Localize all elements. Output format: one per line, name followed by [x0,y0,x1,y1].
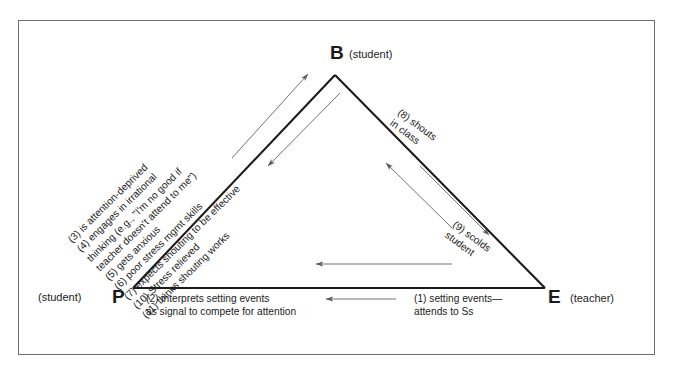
vertex-role-e: (teacher) [570,291,614,305]
figure-container: B (student) (student) P E (teacher) (3) … [0,0,674,365]
flow-arrows [232,74,489,299]
vertex-label-e: E [548,285,561,309]
arrow-e-to-b-scolds [386,163,452,228]
arrow-b-to-p-downward [268,93,340,166]
step-2-label-line2: as signal to compete for attention [146,305,296,318]
step-1-label-line1: (1) setting events— [414,292,502,305]
vertex-label-b: B [330,41,344,65]
vertex-role-b: (student) [349,47,392,61]
step-2-label-line1: (2) interprets setting events [146,292,269,305]
triangle-edge-b-to-e [335,75,545,288]
step-1-label-line2: attends to Ss [414,305,473,318]
vertex-role-p: (student) [38,290,81,304]
